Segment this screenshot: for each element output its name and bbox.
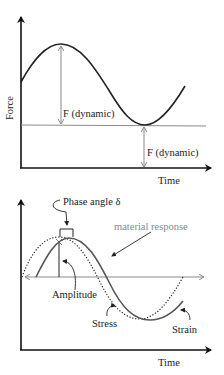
amplitude-pointer (63, 261, 75, 290)
stress-curve (22, 237, 183, 319)
stress-pointer (107, 306, 115, 316)
top-y-axis-label: Force (4, 96, 15, 120)
strain-pointer (181, 310, 190, 320)
top-force-chart: F (dynamic) F (dynamic) Force Time (4, 17, 211, 186)
dynamic-mechanical-diagram: F (dynamic) F (dynamic) Force Time Phase… (0, 0, 224, 375)
f-dynamic-label-upper: F (dynamic) (63, 108, 115, 120)
material-response-pointer (112, 232, 151, 256)
mean-force-line (21, 125, 206, 126)
phase-angle-bracket (60, 229, 73, 237)
material-response-label: material response (114, 221, 188, 232)
phase-angle-label: Phase angle δ (63, 196, 120, 207)
stress-label: Stress (92, 318, 117, 329)
bottom-stress-strain-chart: Phase angle δ material response Amplitud… (20, 196, 211, 368)
strain-label: Strain (172, 324, 198, 335)
top-x-axis-label: Time (158, 175, 180, 186)
f-dynamic-label-lower: F (dynamic) (147, 147, 199, 159)
bottom-x-axis-label: Time (158, 357, 180, 368)
amplitude-label: Amplitude (52, 289, 97, 300)
